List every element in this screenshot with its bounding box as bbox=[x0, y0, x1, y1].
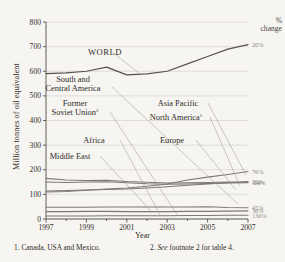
series-label-europe: Europe bbox=[160, 136, 184, 145]
gridlines bbox=[46, 22, 248, 219]
series-label-world: WORLD bbox=[88, 47, 122, 57]
series-label-south-central-line2: Central America bbox=[45, 84, 100, 93]
chart-plot-area: 0100200300400500600700800 19971999200120… bbox=[0, 0, 285, 262]
series-label-south-central-line1: South and bbox=[56, 75, 91, 84]
x-axis-title: Year bbox=[0, 231, 285, 240]
footnote-2-rest: footnote 2 for table 4. bbox=[168, 243, 234, 252]
series-label-fsu-line1: Former bbox=[63, 99, 88, 108]
svg-text:130%: 130% bbox=[252, 212, 266, 219]
energy-consumption-chart: 0100200300400500600700800 19971999200120… bbox=[0, 0, 285, 262]
fsu-footnote-marker: 2 bbox=[96, 108, 99, 113]
percent-change-word: change bbox=[260, 25, 282, 33]
series-label-middle-east: Middle East bbox=[50, 152, 91, 161]
series-label-north-america: North America1 bbox=[150, 113, 203, 122]
svg-text:800: 800 bbox=[30, 18, 42, 27]
svg-text:20%: 20% bbox=[252, 41, 263, 48]
svg-text:300: 300 bbox=[30, 141, 42, 150]
svg-text:600: 600 bbox=[30, 67, 42, 76]
series-label-asia-pacific: Asia Pacific bbox=[158, 99, 199, 108]
footnote-2: 2. See footnote 2 for table 4. bbox=[150, 243, 234, 252]
percent-change-labels: 20%76%32%-14%1%45%36%130% bbox=[252, 41, 266, 219]
north-america-footnote-marker: 1 bbox=[200, 113, 203, 118]
svg-text:200: 200 bbox=[30, 165, 42, 174]
series-label-africa: Africa bbox=[83, 136, 105, 145]
svg-text:76%: 76% bbox=[252, 168, 263, 175]
svg-text:500: 500 bbox=[30, 91, 42, 100]
svg-text:400: 400 bbox=[30, 116, 42, 125]
svg-text:100: 100 bbox=[30, 190, 42, 199]
series-label-fsu-line2: Soviet Union2 bbox=[52, 108, 99, 117]
percent-change-header: % change bbox=[260, 17, 282, 34]
svg-text:700: 700 bbox=[30, 42, 42, 51]
y-axis-ticks: 0100200300400500600700800 bbox=[30, 18, 46, 224]
footnote-1: 1. Canada, USA and Mexico. bbox=[14, 243, 100, 252]
footnote-2-see: See bbox=[157, 243, 167, 252]
label-leader-lines bbox=[100, 52, 246, 216]
svg-text:1%: 1% bbox=[252, 179, 260, 186]
y-axis-title: Million tonnes of oil equivalent bbox=[12, 27, 21, 207]
